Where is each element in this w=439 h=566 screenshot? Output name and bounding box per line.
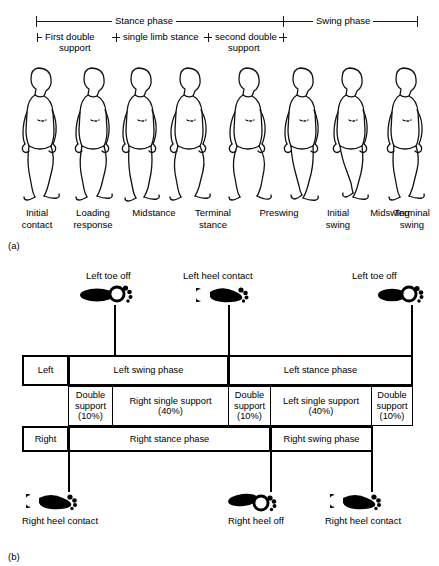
- first-double-support-label-line1: First double: [42, 31, 98, 42]
- cell-right-swing-phase: Right swing phase: [270, 426, 373, 452]
- cell-left-stance-phase: Left stance phase: [228, 355, 413, 386]
- gait-phase-captions: Initial contact Loading response Midstan…: [0, 207, 439, 235]
- phase-caption-line1: Preswing: [248, 207, 310, 219]
- phase-caption-line2: swing: [385, 219, 439, 231]
- row-label-left: Left: [22, 355, 69, 386]
- walking-figure-terminal-stance: [158, 60, 216, 205]
- cell-left-swing-phase-text: Left swing phase: [113, 365, 185, 376]
- walking-figure-initial-contact: [8, 60, 66, 205]
- second-double-support-label-line1: second double: [212, 31, 280, 42]
- cell-text-line3: (10%): [379, 411, 406, 422]
- phase-caption-line2: response: [62, 219, 124, 231]
- foot-heel-contact-icon: [330, 490, 386, 516]
- event-label-right-heel-contact-1: Right heel contact: [22, 515, 98, 526]
- cell-left-single-support: Left single support (40%): [270, 386, 372, 426]
- walking-figure-sequence: [0, 60, 439, 205]
- row-label-right-text: Right: [34, 434, 58, 445]
- event-drop-line-left-toe-off-1: [114, 305, 116, 355]
- cell-text-line2: support: [74, 401, 107, 412]
- cell-left-swing-phase: Left swing phase: [68, 355, 229, 386]
- cell-double-support-1: Double support (10%): [68, 386, 113, 426]
- phase-caption-line1: Loading: [62, 207, 124, 219]
- gait-timing-diagram: Left toe off Left heel contact Left toe …: [0, 262, 439, 562]
- cell-text-line1: Double: [234, 390, 265, 401]
- cell-left-stance-phase-text: Left stance phase: [283, 365, 358, 376]
- foot-heel-contact-icon: [26, 490, 82, 516]
- phase-caption-initial-contact: Initial contact: [8, 207, 66, 230]
- event-drop-line-right-heel-contact-2: [371, 452, 373, 492]
- single-limb-stance-label: single limb stance: [120, 31, 202, 42]
- walking-figure-midswing: [320, 60, 378, 205]
- cell-text-line3: (10%): [236, 411, 263, 422]
- phase-caption-line2: swing: [312, 219, 364, 231]
- cell-text-line3: (10%): [77, 411, 104, 422]
- cell-right-single-support: Right single support (40%): [112, 386, 229, 426]
- phase-caption-line1: Initial: [312, 207, 364, 219]
- row-label-left-text: Left: [37, 365, 55, 376]
- event-label-right-heel-off: Right heel off: [228, 515, 284, 526]
- event-label-left-toe-off-1: Left toe off: [86, 270, 131, 281]
- phase-caption-line1: Terminal: [182, 207, 244, 219]
- foot-heel-contact-icon: [196, 283, 252, 309]
- cell-right-swing-phase-text: Right swing phase: [283, 434, 361, 445]
- swing-bracket-tick-right: [417, 16, 418, 27]
- cell-text-line2: support: [375, 401, 408, 412]
- subfigure-label-a: (a): [8, 240, 20, 251]
- event-drop-line-left-toe-off-2: [411, 305, 413, 355]
- cell-text-line1: Double: [75, 390, 106, 401]
- phase-caption-line1: Midstance: [125, 207, 183, 219]
- event-drop-line-right-heel-off: [270, 452, 272, 492]
- event-drop-line-left-heel-contact: [228, 305, 230, 355]
- phase-caption-line2: stance: [182, 219, 244, 231]
- first-double-support-label-line2: support: [56, 42, 94, 53]
- phase-caption-line1: Terminal: [385, 207, 439, 219]
- subfigure-label-b: (b): [8, 551, 20, 562]
- event-drop-line-right-heel-contact-1: [68, 452, 70, 492]
- foot-toe-off-icon: [378, 283, 434, 309]
- walking-figure-terminal-swing: [374, 60, 432, 205]
- second-double-support-label-line2: support: [225, 42, 263, 53]
- walking-figure-preswing: [218, 60, 276, 205]
- phase-caption-initial-swing: Initial swing: [312, 207, 364, 230]
- cell-double-support-3: Double support (10%): [371, 386, 413, 426]
- phase-caption-line1: Initial: [8, 207, 66, 219]
- phase-caption-line2: contact: [8, 219, 66, 231]
- cell-text-line2: (40%): [308, 406, 335, 417]
- cell-text-line1: Left single support: [282, 396, 360, 407]
- cell-text-line1: Double: [376, 390, 407, 401]
- row-label-right: Right: [22, 426, 69, 452]
- cell-right-stance-phase: Right stance phase: [68, 426, 271, 452]
- event-label-right-heel-contact-2: Right heel contact: [325, 515, 401, 526]
- gait-phase-scale: Stance phase Swing phase First double su…: [0, 8, 439, 54]
- stance-phase-label: Stance phase: [112, 15, 176, 26]
- phase-caption-terminal-stance: Terminal stance: [182, 207, 244, 230]
- foot-heel-off-icon: [228, 490, 284, 516]
- event-label-left-toe-off-2: Left toe off: [352, 270, 397, 281]
- foot-toe-off-icon: [80, 283, 136, 309]
- sub-bracket-tick-3: [283, 33, 284, 42]
- phase-caption-loading-response: Loading response: [62, 207, 124, 230]
- cell-double-support-2: Double support (10%): [228, 386, 271, 426]
- swing-phase-label: Swing phase: [313, 15, 373, 26]
- cell-text-line2: (40%): [157, 406, 184, 417]
- event-label-left-heel-contact: Left heel contact: [183, 270, 253, 281]
- phase-caption-preswing: Preswing: [248, 207, 310, 219]
- cell-text-line2: support: [233, 401, 266, 412]
- phase-caption-midstance: Midstance: [125, 207, 183, 219]
- phase-caption-terminal-swing: Terminal swing: [385, 207, 439, 230]
- cell-right-stance-phase-text: Right stance phase: [129, 434, 211, 445]
- cell-text-line1: Right single support: [128, 396, 212, 407]
